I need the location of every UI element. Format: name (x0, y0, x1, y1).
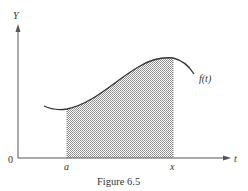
x-axis-arrow-icon (223, 156, 231, 161)
x-axis-label: t (234, 153, 237, 164)
curve-label: f(t) (199, 73, 212, 85)
figure-canvas: Y 0 t a x f(t) Figure 6.5 (0, 0, 248, 191)
shaded-area (67, 58, 173, 158)
figure-caption: Figure 6.5 (97, 176, 140, 187)
y-axis-arrow-icon (16, 24, 21, 32)
upper-limit-label: x (169, 161, 175, 172)
lower-limit-label: a (64, 161, 69, 172)
y-axis-label: Y (13, 10, 20, 21)
origin-label: 0 (8, 154, 13, 165)
